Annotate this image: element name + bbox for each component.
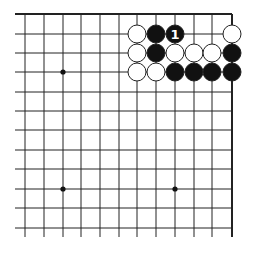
black-stone (147, 44, 165, 62)
black-stone (223, 44, 241, 62)
white-stone (166, 44, 184, 62)
white-stone (147, 63, 165, 81)
star-point (60, 69, 65, 74)
black-stone (185, 63, 203, 81)
white-stone (128, 63, 146, 81)
star-point (60, 186, 65, 191)
go-board: 1 (0, 0, 254, 255)
black-stone (166, 63, 184, 81)
star-point (172, 186, 177, 191)
white-stone (128, 44, 146, 62)
black-stone (203, 63, 221, 81)
white-stone (203, 44, 221, 62)
white-stone (128, 25, 146, 43)
stones: 1 (128, 25, 241, 81)
white-stone (185, 44, 203, 62)
white-stone (223, 25, 241, 43)
black-stone (223, 63, 241, 81)
black-stone (147, 25, 165, 43)
move-number-label: 1 (170, 27, 179, 42)
